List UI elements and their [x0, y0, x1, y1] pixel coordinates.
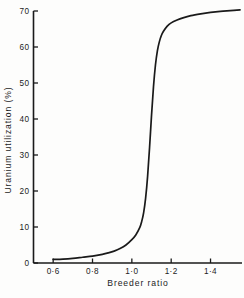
x-tick-label-1: 1·0 [125, 267, 138, 276]
x-tick-label-0.8: 0·8 [86, 267, 99, 276]
clipped-caption-fragment [0, 292, 244, 298]
y-axis-tick-labels: 010203040506070 [20, 7, 30, 268]
y-tick-label-10: 10 [20, 223, 30, 232]
x-axis-title: Breeder ratio [107, 278, 168, 288]
y-tick-label-60: 60 [20, 43, 30, 52]
x-tick-label-0.6: 0·6 [47, 267, 60, 276]
x-tick-label-1.4: 1·4 [204, 267, 217, 276]
y-tick-label-40: 40 [20, 115, 30, 124]
data-curve-uranium-utilization [53, 10, 240, 259]
x-axis-tick-labels: 0·60·81·01·21·4 [47, 267, 217, 276]
x-tick-label-1.2: 1·2 [165, 267, 178, 276]
uranium-utilization-chart: 010203040506070 0·60·81·01·21·4 Breeder … [0, 0, 244, 298]
y-tick-label-30: 30 [20, 151, 30, 160]
y-tick-label-50: 50 [20, 79, 30, 88]
y-axis-group: 010203040506070 [20, 7, 38, 268]
y-tick-label-20: 20 [20, 187, 30, 196]
y-axis-title: Uranium utilization (%) [3, 86, 13, 193]
x-axis-group: 0·60·81·01·21·4 [34, 259, 243, 277]
figure-container: 010203040506070 0·60·81·01·21·4 Breeder … [0, 0, 244, 298]
y-tick-label-70: 70 [20, 7, 30, 16]
y-tick-label-0: 0 [25, 259, 30, 268]
